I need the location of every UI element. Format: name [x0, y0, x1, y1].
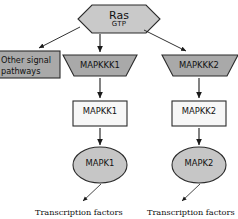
node-mapkkk2-trapezoid[interactable]: [162, 55, 238, 76]
node-mapk1-ellipse[interactable]: [73, 147, 127, 183]
edge-ras-to-mapkkk2: [144, 30, 186, 51]
edge-ras-to-other-signal: [39, 27, 80, 48]
node-mapkkk1-trapezoid[interactable]: [63, 55, 137, 76]
node-mapkk1-rect[interactable]: [73, 101, 127, 126]
edge-mapk1-to-transcription-factors: [83, 184, 101, 201]
node-ras-hexagon[interactable]: [78, 5, 160, 33]
edge-mapk2-to-transcription-factors: [182, 184, 200, 201]
diagram-canvas: Ras GTP Other signal pathways MAPKKK1 MA…: [0, 0, 238, 219]
node-other-signal-box[interactable]: [0, 51, 60, 78]
node-mapk2-ellipse[interactable]: [172, 147, 226, 183]
diagram-graphics: [0, 0, 238, 219]
node-mapkk2-rect[interactable]: [172, 101, 226, 126]
